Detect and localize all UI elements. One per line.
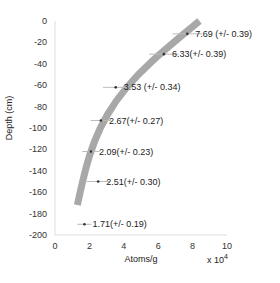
- y-tick-label: -200: [29, 230, 47, 240]
- data-point: 3.53 (+/- 0.34): [103, 82, 181, 92]
- y-tick-label: -20: [34, 37, 47, 47]
- y-tick-label: 0: [42, 16, 47, 26]
- data-label: 2.51(+/- 0.30): [106, 177, 160, 187]
- data-label: 2.09(+/- 0.23): [99, 147, 153, 157]
- x-tick-label: 4: [121, 241, 126, 251]
- y-tick-label: -40: [34, 59, 47, 69]
- y-tick-label: -100: [29, 123, 47, 133]
- y-tick-label: -140: [29, 166, 47, 176]
- x-tick-label: 0: [52, 241, 57, 251]
- x-axis-label: Atoms/g: [124, 254, 157, 264]
- point-marker: [100, 119, 103, 122]
- data-label: 1.71(+/- 0.19): [92, 219, 146, 229]
- data-label: 2.67(+/- 0.27): [109, 116, 163, 126]
- point-marker: [97, 180, 100, 183]
- data-point: 2.51(+/- 0.30): [87, 177, 161, 187]
- point-marker: [90, 150, 93, 153]
- point-marker: [83, 223, 86, 226]
- y-tick-label: -60: [34, 80, 47, 90]
- y-tick-label: -180: [29, 209, 47, 219]
- x-axis-multiplier: x 104: [207, 253, 228, 265]
- y-axis-label: Depth (cm): [4, 96, 14, 141]
- y-tick-label: -160: [29, 187, 47, 197]
- data-label: 6.33(+/- 0.39): [172, 49, 226, 59]
- data-point: 1.71(+/- 0.19): [77, 219, 146, 229]
- y-tick-label: -120: [29, 144, 47, 154]
- x-multiplier-base: x 10: [207, 255, 224, 265]
- y-ticks: 0-20-40-60-80-100-120-140-160-180-200: [29, 16, 47, 240]
- point-marker: [186, 33, 189, 36]
- chart: 0-20-40-60-80-100-120-140-160-180-200 02…: [0, 0, 280, 283]
- y-tick-label: -80: [34, 102, 47, 112]
- data-label: 7.69 (+/- 0.39): [195, 29, 252, 39]
- x-multiplier-exponent: 4: [224, 253, 228, 260]
- x-ticks: 0246810: [52, 241, 232, 251]
- point-marker: [114, 86, 117, 89]
- x-tick-label: 8: [190, 241, 195, 251]
- data-label: 3.53 (+/- 0.34): [124, 82, 181, 92]
- point-marker: [163, 53, 166, 56]
- x-tick-label: 6: [156, 241, 161, 251]
- x-tick-label: 10: [222, 241, 232, 251]
- x-tick-label: 2: [87, 241, 92, 251]
